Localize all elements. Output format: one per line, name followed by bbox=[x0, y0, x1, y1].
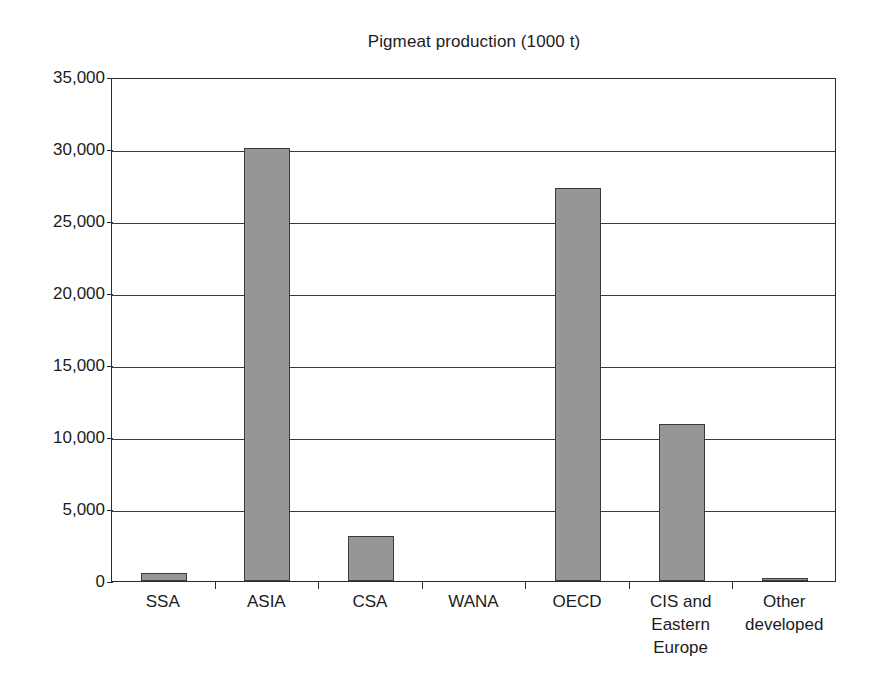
y-axis-tick-label: 35,000 bbox=[10, 68, 105, 88]
y-axis-tick-mark bbox=[107, 510, 113, 511]
chart-figure: Pigmeat production (1000 t) 05,00010,000… bbox=[0, 0, 871, 689]
x-axis-tick-label-ssa: SSA bbox=[111, 590, 215, 613]
x-axis-tick-label-line: Eastern bbox=[629, 613, 733, 636]
y-axis-tick-label: 10,000 bbox=[10, 428, 105, 448]
bar-csa[interactable] bbox=[348, 536, 394, 581]
bar-slot bbox=[526, 79, 630, 581]
x-axis-tick-label-cis-and-eastern-europe: CIS andEasternEurope bbox=[629, 590, 733, 659]
bar-slot bbox=[630, 79, 734, 581]
y-axis-tick-label: 30,000 bbox=[10, 140, 105, 160]
y-axis-tick-label: 20,000 bbox=[10, 284, 105, 304]
x-axis-tick-label-line: ASIA bbox=[215, 590, 319, 613]
x-axis-tick-mark bbox=[318, 582, 319, 589]
x-axis-tick-mark bbox=[422, 582, 423, 589]
x-axis-tick-label-line: Other bbox=[732, 590, 836, 613]
x-axis-tick-label-line: CIS and bbox=[629, 590, 733, 613]
x-axis-tick-label-line: Europe bbox=[629, 636, 733, 659]
y-axis-tick-mark bbox=[107, 78, 113, 79]
y-axis-tick-label: 15,000 bbox=[10, 356, 105, 376]
x-axis-tick-label-asia: ASIA bbox=[215, 590, 319, 613]
bar-other-developed[interactable] bbox=[762, 578, 808, 581]
y-axis-tick-mark bbox=[107, 222, 113, 223]
bar-series bbox=[112, 79, 835, 581]
x-axis-tick-mark bbox=[215, 582, 216, 589]
y-axis-tick-label: 0 bbox=[10, 572, 105, 592]
y-axis-tick-mark bbox=[107, 438, 113, 439]
x-axis-tick-mark bbox=[732, 582, 733, 589]
x-axis-tick-label-line: CSA bbox=[318, 590, 422, 613]
bar-oecd[interactable] bbox=[555, 188, 601, 581]
chart-title: Pigmeat production (1000 t) bbox=[111, 32, 837, 52]
y-axis-tick-label: 5,000 bbox=[10, 500, 105, 520]
x-axis-tick-label-line: SSA bbox=[111, 590, 215, 613]
y-axis-tick-mark bbox=[107, 582, 113, 583]
x-axis-tick-label-line: OECD bbox=[525, 590, 629, 613]
x-axis-tick-label-line: WANA bbox=[422, 590, 526, 613]
y-axis-tick-label: 25,000 bbox=[10, 212, 105, 232]
x-axis-tick-label-oecd: OECD bbox=[525, 590, 629, 613]
bar-slot bbox=[112, 79, 216, 581]
y-axis-tick-mark bbox=[107, 366, 113, 367]
bar-ssa[interactable] bbox=[141, 573, 187, 581]
bar-slot bbox=[733, 79, 837, 581]
y-axis: 05,00010,00015,00020,00025,00030,00035,0… bbox=[8, 78, 105, 582]
bar-cis-and-eastern-europe[interactable] bbox=[659, 424, 705, 581]
bar-slot bbox=[216, 79, 320, 581]
x-axis-tick-label-wana: WANA bbox=[422, 590, 526, 613]
y-axis-tick-mark bbox=[107, 294, 113, 295]
bar-asia[interactable] bbox=[244, 148, 290, 581]
x-axis-labels: SSAASIACSAWANAOECDCIS andEasternEuropeOt… bbox=[111, 590, 836, 682]
plot-area bbox=[111, 78, 836, 582]
x-axis-tick-label-other-developed: Otherdeveloped bbox=[732, 590, 836, 636]
y-axis-tick-mark bbox=[107, 150, 113, 151]
bar-slot bbox=[423, 79, 527, 581]
x-axis-tick-label-line: developed bbox=[732, 613, 836, 636]
bar-slot bbox=[319, 79, 423, 581]
x-axis-tick-mark bbox=[629, 582, 630, 589]
x-axis-tick-label-csa: CSA bbox=[318, 590, 422, 613]
x-axis-tick-mark bbox=[525, 582, 526, 589]
